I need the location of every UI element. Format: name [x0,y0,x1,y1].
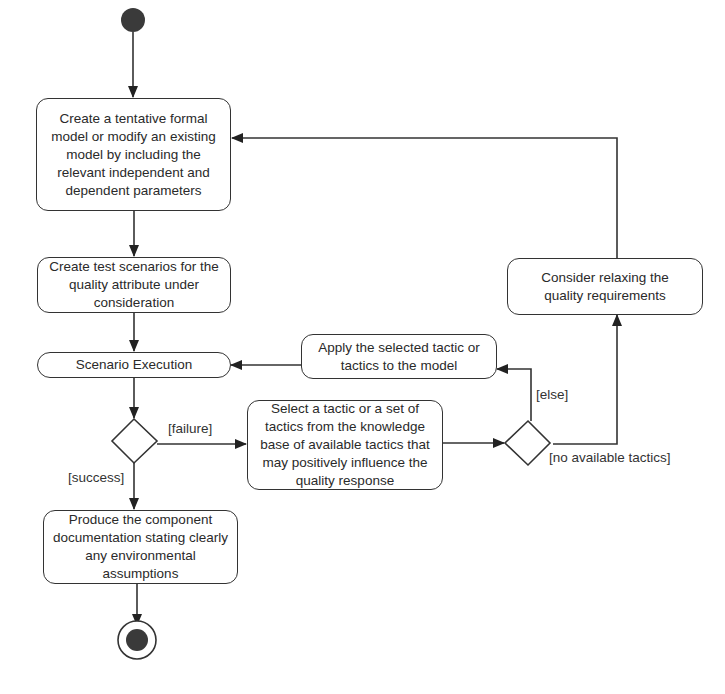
activity-label: Consider relaxing the quality requiremen… [528,269,682,305]
activity-diagram: Create a tentative formal model or modif… [0,0,725,694]
guard-no-available-tactics: [no available tactics] [549,450,671,465]
activity-label: Scenario Execution [76,356,192,374]
activity-relax-requirements: Consider relaxing the quality requiremen… [507,258,703,315]
final-node-dot [126,629,148,651]
activity-label: Produce the component documentation stat… [50,511,231,583]
decision-node-result [112,419,157,463]
activity-label: Create a tentative formal model or modif… [43,110,224,200]
activity-label: Select a tactic or a set of tactics from… [254,400,436,490]
decision-node-tactics [505,421,550,465]
activity-scenario-execution: Scenario Execution [37,352,231,378]
initial-node [121,8,145,32]
guard-failure: [failure] [168,421,212,436]
activity-apply-tactic: Apply the selected tactic or tactics to … [301,334,497,379]
activity-label: Apply the selected tactic or tactics to … [312,339,486,375]
activity-create-scenarios: Create test scenarios for the quality at… [37,257,231,313]
activity-label: Create test scenarios for the quality at… [44,258,224,312]
guard-success: [success] [68,470,124,485]
guard-else: [else] [536,387,568,402]
activity-create-model: Create a tentative formal model or modif… [36,98,231,211]
edge-relax-to-model [232,138,617,258]
edge-else [497,369,531,421]
activity-produce-docs: Produce the component documentation stat… [43,510,238,584]
activity-select-tactic: Select a tactic or a set of tactics from… [247,400,443,490]
edge-no-tactics [553,315,617,444]
